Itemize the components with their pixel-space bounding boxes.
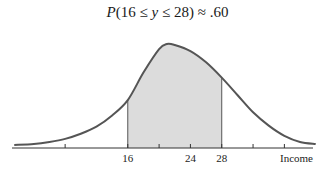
density-chart: 162428 Income xyxy=(0,0,335,182)
x-tick-label: 16 xyxy=(122,152,134,164)
x-tick-labels: 162428 xyxy=(122,152,227,164)
x-tick-label: 24 xyxy=(185,152,197,164)
x-tick-label: 28 xyxy=(216,152,228,164)
x-axis-label: Income xyxy=(280,152,313,164)
shaded-area xyxy=(128,44,222,148)
